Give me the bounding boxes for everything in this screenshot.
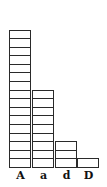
- unit-cell: [55, 158, 77, 168]
- x-label-d: d: [55, 169, 78, 182]
- bar-D: [77, 159, 99, 168]
- x-label-a: a: [32, 169, 55, 182]
- x-label-A: A: [9, 169, 32, 182]
- x-label-D: D: [77, 169, 100, 182]
- unit-bar-chart: A a d D: [0, 0, 107, 187]
- bar-a: [32, 91, 54, 168]
- bar-d: [55, 142, 77, 168]
- unit-cell: [77, 158, 99, 168]
- unit-cell: [9, 158, 31, 168]
- bar-A: [9, 31, 31, 169]
- unit-cell: [32, 158, 54, 168]
